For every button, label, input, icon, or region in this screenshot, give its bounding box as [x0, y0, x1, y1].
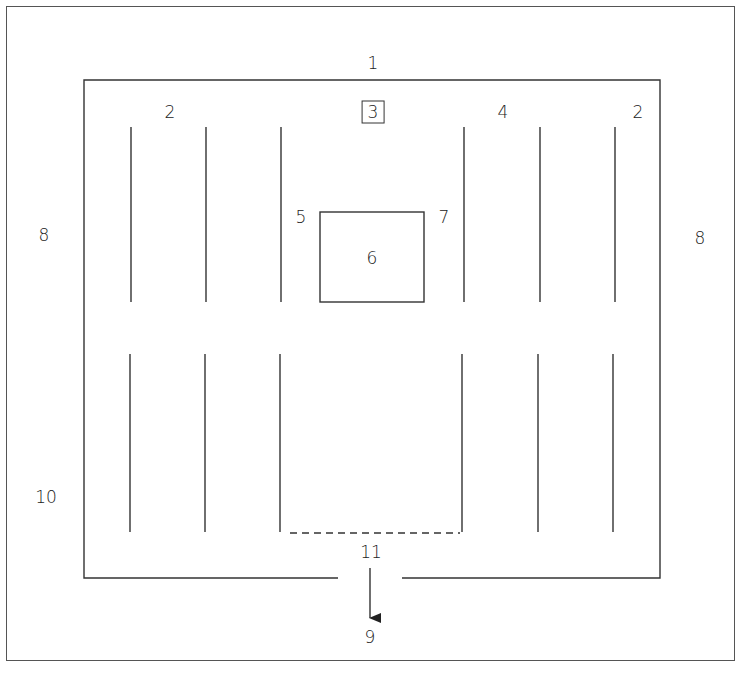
label-11: 11 [360, 544, 382, 561]
label-9: 9 [365, 629, 376, 646]
label-8-right: 8 [695, 230, 706, 247]
label-6: 6 [367, 250, 378, 267]
label-8-left: 8 [39, 227, 50, 244]
label-2-left: 2 [165, 104, 176, 121]
label-4: 4 [498, 104, 509, 121]
label-1: 1 [368, 55, 379, 72]
label-7: 7 [439, 209, 450, 226]
label-2-right: 2 [633, 104, 644, 121]
label-3-boxed: 3 [362, 101, 385, 124]
room-wall [84, 80, 660, 578]
label-5: 5 [296, 209, 307, 226]
label-10: 10 [35, 489, 57, 506]
